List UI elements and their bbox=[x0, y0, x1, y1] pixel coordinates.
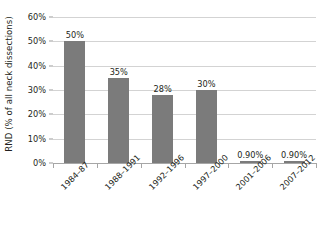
y-axis-title-text: RND (% of all neck dissections) bbox=[4, 16, 14, 152]
x-label-slot: 1992–1996 bbox=[141, 168, 185, 225]
x-tick-label: 1988–1991 bbox=[103, 170, 125, 192]
bar-value-label: 30% bbox=[197, 80, 215, 89]
y-tick-label: 0% bbox=[33, 159, 46, 167]
y-tick-label: 50% bbox=[28, 37, 46, 45]
bar-slot: 30% bbox=[184, 17, 228, 163]
y-tick-label: 10% bbox=[28, 135, 46, 143]
y-tick-label: 40% bbox=[28, 62, 46, 70]
x-label-slot: 2001–2006 bbox=[228, 168, 272, 225]
bar-value-label: 28% bbox=[153, 85, 171, 94]
x-tick-label: 1984–87 bbox=[59, 170, 81, 192]
bar[interactable]: 50% bbox=[64, 41, 85, 163]
bar[interactable]: 35% bbox=[108, 78, 129, 163]
bar-slot: 0.90% bbox=[272, 17, 316, 163]
bars-layer: 50%35%28%30%0.90%0.90% bbox=[53, 17, 316, 163]
bar-slot: 50% bbox=[53, 17, 97, 163]
bar-value-label: 50% bbox=[66, 31, 84, 40]
y-tick-label: 20% bbox=[28, 110, 46, 118]
plot-area: 50%35%28%30%0.90%0.90% bbox=[53, 17, 316, 163]
bar-slot: 28% bbox=[141, 17, 185, 163]
bar[interactable]: 30% bbox=[196, 90, 217, 163]
bar-slot: 35% bbox=[97, 17, 141, 163]
bar-slot: 0.90% bbox=[228, 17, 272, 163]
y-axis-tick-labels: 0%10%20%30%40%50%60% bbox=[17, 0, 49, 168]
x-tick-label: 1997–2000 bbox=[191, 170, 213, 192]
x-tick-label: 1992–1996 bbox=[147, 170, 169, 192]
x-tick-label: 2007–2012 bbox=[279, 170, 301, 192]
x-tick-mark bbox=[316, 163, 317, 168]
bar[interactable]: 28% bbox=[152, 95, 173, 163]
bar-chart-figure: RND (% of all neck dissections) 0%10%20%… bbox=[0, 0, 335, 225]
bar-value-label: 35% bbox=[110, 68, 128, 77]
y-tick-label: 30% bbox=[28, 86, 46, 94]
x-label-slot: 1988–1991 bbox=[97, 168, 141, 225]
x-axis-tick-labels: 1984–871988–19911992–19961997–20002001–2… bbox=[53, 168, 316, 225]
x-label-slot: 1997–2000 bbox=[185, 168, 229, 225]
x-label-slot: 2007–2012 bbox=[272, 168, 316, 225]
y-tick-label: 60% bbox=[28, 13, 46, 21]
y-axis-title: RND (% of all neck dissections) bbox=[0, 0, 17, 168]
x-label-slot: 1984–87 bbox=[53, 168, 97, 225]
x-tick-label: 2001–2006 bbox=[235, 170, 257, 192]
